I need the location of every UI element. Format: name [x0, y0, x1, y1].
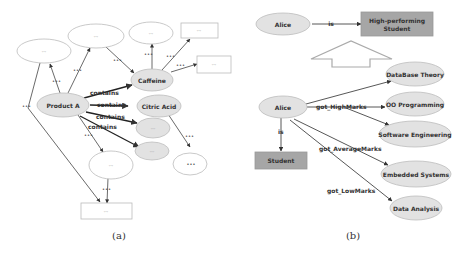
- figure-canvas: contains contains contains contains ••• …: [0, 0, 471, 255]
- label-low: got_LowMarks: [327, 187, 376, 195]
- text-box-bottom: ---: [104, 209, 109, 214]
- text-grey-2: ---: [150, 149, 155, 154]
- text-software-engineering: Software Engineering: [378, 131, 451, 139]
- label-dots-10: •••: [185, 133, 194, 139]
- label-dots-7: •••: [22, 103, 31, 109]
- text-data-analysis: Data Analysis: [393, 205, 440, 213]
- edge-high-db: [306, 81, 391, 104]
- text-high-line1: High-performing: [369, 17, 425, 25]
- label-dots-5: •••: [166, 53, 175, 59]
- text-top-left: ---: [42, 49, 47, 54]
- caption-b: (b): [346, 230, 360, 241]
- label-dots-8: •••: [84, 132, 93, 138]
- label-high: got_HighMarks: [316, 103, 367, 111]
- label-contains-4: contains: [88, 123, 117, 130]
- edge-avg: [294, 119, 388, 165]
- text-box-right: ---: [212, 62, 217, 67]
- text-student: Student: [268, 157, 295, 164]
- figure-b: is got_HighMarks is got_AverageMarks got…: [255, 12, 452, 241]
- label-dots-3: •••: [113, 57, 122, 63]
- text-database-theory: DataBase Theory: [386, 71, 444, 79]
- text-alice-top: Alice: [275, 21, 291, 28]
- text-product-a: Product A: [46, 102, 80, 109]
- text-box-top: ---: [197, 28, 202, 33]
- text-citric-acid: Citric Acid: [142, 103, 177, 110]
- edge-a-11: [168, 114, 190, 147]
- inference-arrow-icon: [311, 41, 392, 67]
- text-high-line2: Student: [384, 25, 411, 32]
- text-right-small: •••: [187, 161, 196, 167]
- label-is-top: is: [328, 20, 334, 27]
- text-caffeine: Caffeine: [138, 77, 166, 84]
- label-is: is: [278, 128, 284, 135]
- text-top-right: ---: [149, 31, 154, 36]
- label-avg: got_AverageMarks: [319, 145, 382, 153]
- text-embedded-systems: Embedded Systems: [383, 171, 450, 179]
- label-dots-4: •••: [144, 51, 153, 57]
- text-alice: Alice: [275, 104, 291, 111]
- text-grey-1: ---: [151, 126, 156, 131]
- node-high-performing-student: [361, 12, 433, 36]
- label-contains-1: contains: [90, 89, 119, 96]
- figure-a: contains contains contains contains ••• …: [17, 22, 231, 241]
- label-contains-3: contains: [96, 113, 125, 120]
- caption-a: (a): [112, 230, 126, 241]
- label-dots-1: •••: [52, 78, 61, 84]
- label-dots-2: •••: [73, 67, 82, 73]
- label-dots-9: •••: [102, 186, 111, 192]
- text-mid-white: ---: [109, 163, 114, 168]
- edge-high-se: [346, 108, 389, 125]
- text-oo-programming: OO Programming: [386, 101, 444, 109]
- label-dots-6: •••: [176, 62, 185, 68]
- label-contains-2: contains: [97, 101, 126, 108]
- text-top-mid: ---: [94, 34, 99, 39]
